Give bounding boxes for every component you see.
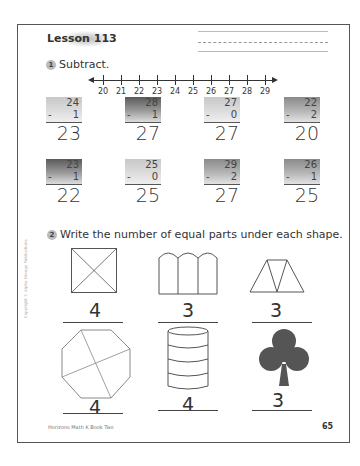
problem-box: 23 - 1 (46, 159, 82, 184)
problem-minuend: 23 (66, 159, 79, 170)
problem-minuend: 26 (304, 159, 317, 170)
cylinder-shape (167, 326, 209, 391)
subtraction-problem: 25 - 0 25 (125, 159, 161, 205)
name-line-top (198, 31, 328, 32)
problem-box: 28 - 1 (125, 97, 161, 122)
answer-line (63, 322, 123, 323)
club-shape (258, 326, 310, 388)
minus-sign: - (127, 171, 131, 182)
problem-box: 22 - 2 (284, 97, 320, 122)
number-line-label: 23 (150, 87, 164, 96)
section-1-instruction: Subtract. (59, 58, 109, 71)
problem-subtrahend: 1 (73, 109, 79, 120)
problem-subtrahend: 1 (152, 109, 158, 120)
number-line-label: 22 (132, 87, 146, 96)
problem-minuend: 27 (224, 97, 237, 108)
shape-answer[interactable]: 3 (168, 300, 208, 320)
problem-box: 27 - 0 (204, 97, 240, 122)
minus-sign: - (206, 171, 210, 182)
minus-sign: - (48, 109, 52, 120)
trapezoid-shape (249, 259, 305, 293)
problem-subtrahend: 1 (73, 171, 79, 182)
problem-subtrahend: 2 (311, 109, 317, 120)
answer-line (252, 410, 312, 411)
subtraction-problem: 27 - 0 27 (204, 97, 240, 143)
problem-minuend: 22 (304, 97, 317, 108)
name-line-dashed (198, 42, 328, 43)
problem-subtrahend: 2 (231, 171, 237, 182)
lesson-title: Lesson 113 (47, 32, 117, 45)
subtraction-problem: 28 - 1 27 (125, 97, 161, 143)
subtraction-problem: 23 - 1 22 (46, 159, 82, 205)
subtraction-problem: 24 - 1 23 (46, 97, 82, 143)
problem-answer[interactable]: 22 (46, 185, 82, 205)
number-line-label: 24 (168, 87, 182, 96)
octagon-shape (61, 329, 131, 399)
side-copyright: Copyright © Alpha Omega Publications (23, 248, 28, 318)
section-number-badge: 1 (46, 60, 56, 70)
number-line-label: 28 (240, 87, 254, 96)
shape-answer[interactable]: 3 (258, 390, 298, 410)
number-line: 20 21 22 23 24 25 26 27 28 29 (88, 74, 278, 96)
problem-answer[interactable]: 25 (125, 185, 161, 205)
number-line-label: 29 (258, 87, 272, 96)
problem-answer[interactable]: 27 (125, 123, 161, 143)
problem-box: 25 - 0 (125, 159, 161, 184)
answer-line (252, 322, 312, 323)
minus-sign: - (206, 109, 210, 120)
number-line-label: 26 (204, 87, 218, 96)
publisher-footer: Horizons Math K Book Two (48, 424, 114, 430)
minus-sign: - (48, 171, 52, 182)
minus-sign: - (286, 171, 290, 182)
subtraction-problem: 29 - 2 27 (204, 159, 240, 205)
number-line-label: 20 (96, 87, 110, 96)
problem-subtrahend: 0 (231, 109, 237, 120)
problem-subtrahend: 1 (311, 171, 317, 182)
shape-answer[interactable]: 4 (168, 394, 208, 414)
section-2-heading: 2 Write the number of equal parts under … (47, 228, 343, 241)
arched-panels-shape (158, 248, 218, 295)
problem-box: 26 - 1 (284, 159, 320, 184)
answer-line (158, 322, 218, 323)
answer-line (158, 410, 218, 411)
subtraction-problem: 26 - 1 25 (284, 159, 320, 205)
problem-answer[interactable]: 20 (284, 123, 320, 143)
number-line-label: 25 (186, 87, 200, 96)
problem-subtrahend: 0 (152, 171, 158, 182)
problem-box: 29 - 2 (204, 159, 240, 184)
subtraction-problem: 22 - 2 20 (284, 97, 320, 143)
answer-line (63, 413, 123, 414)
problem-minuend: 24 (66, 97, 79, 108)
shape-answer[interactable]: 3 (256, 300, 296, 320)
problem-answer[interactable]: 25 (284, 185, 320, 205)
problem-minuend: 28 (145, 97, 158, 108)
problem-answer[interactable]: 27 (204, 185, 240, 205)
problem-minuend: 29 (224, 159, 237, 170)
section-number-badge: 2 (47, 230, 57, 240)
number-line-label: 21 (114, 87, 128, 96)
section-2-instruction: Write the number of equal parts under ea… (60, 228, 343, 241)
minus-sign: - (127, 109, 131, 120)
shape-answer[interactable]: 4 (75, 300, 115, 320)
minus-sign: - (286, 109, 290, 120)
arrow-right-icon (272, 77, 278, 83)
section-1-heading: 1 Subtract. (46, 58, 109, 71)
name-line-bottom (198, 51, 328, 52)
problem-answer[interactable]: 23 (46, 123, 82, 143)
square-shape (71, 248, 117, 293)
problem-box: 24 - 1 (46, 97, 82, 122)
page-number: 65 (322, 422, 333, 431)
problem-minuend: 25 (145, 159, 158, 170)
problem-answer[interactable]: 27 (204, 123, 240, 143)
shape-answer[interactable]: 4 (75, 397, 115, 417)
number-line-label: 27 (222, 87, 236, 96)
